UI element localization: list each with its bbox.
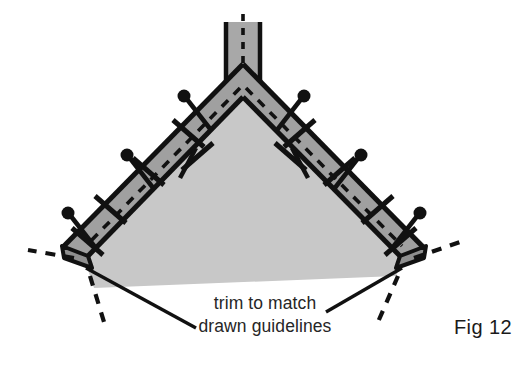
figure-caption: trim to match drawn guidelines (150, 292, 380, 338)
figure-container: trim to match drawn guidelines Fig 12 (0, 0, 526, 372)
right-trim-dashed-lower (378, 276, 398, 322)
figure-number-label: Fig 12 (454, 316, 512, 339)
caption-line-1: trim to match (150, 292, 380, 315)
caption-line-2: drawn guidelines (150, 315, 380, 338)
